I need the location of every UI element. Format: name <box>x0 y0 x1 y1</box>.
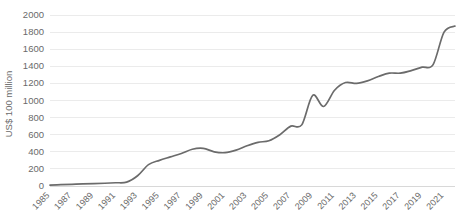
data-series <box>50 26 455 185</box>
chart-canvas: 0200400600800100012001400160018002000 19… <box>0 0 463 222</box>
line-chart: 0200400600800100012001400160018002000 19… <box>0 0 463 222</box>
y-axis-tick-label: 200 <box>28 163 44 174</box>
x-axis-tick-label: 2001 <box>205 190 226 211</box>
x-axis-tick-label: 1991 <box>96 190 117 211</box>
y-axis-tick-label: 400 <box>28 146 44 157</box>
series-line <box>50 26 455 185</box>
x-axis-tick-label: 2017 <box>380 190 401 211</box>
x-axis-tick-label: 2021 <box>424 190 445 211</box>
y-axis-tick-label: 800 <box>28 112 44 123</box>
y-axis-tick-labels: 0200400600800100012001400160018002000 <box>23 9 44 191</box>
x-axis-tick-labels: 1985198719891991199319951997199920012003… <box>30 190 445 211</box>
y-axis-tick-label: 1600 <box>23 43 44 54</box>
y-axis-tick-label: 2000 <box>23 9 44 20</box>
x-axis-tick-label: 1995 <box>140 190 161 211</box>
y-axis-title: US$ 100 million <box>3 71 14 138</box>
x-axis-tick-label: 2003 <box>227 190 248 211</box>
y-axis-tick-label: 1200 <box>23 77 44 88</box>
x-axis-tick-label: 1989 <box>74 190 95 211</box>
x-axis-tick-label: 1997 <box>162 190 183 211</box>
y-axis-tick-label: 600 <box>28 129 44 140</box>
y-axis-tick-label: 0 <box>39 180 44 191</box>
x-axis-tick-label: 2011 <box>315 190 336 211</box>
x-axis-tick-label: 2013 <box>337 190 358 211</box>
x-axis-tick-label: 2015 <box>359 190 380 211</box>
x-axis-tick-label: 2009 <box>293 190 314 211</box>
y-axis-tick-label: 1400 <box>23 60 44 71</box>
gridlines <box>50 15 455 186</box>
x-axis-tick-label: 1987 <box>52 190 73 211</box>
x-axis-tick-label: 2005 <box>249 190 270 211</box>
x-axis-tick-label: 1985 <box>30 190 51 211</box>
x-axis-tick-label: 1993 <box>118 190 139 211</box>
x-axis-tick-label: 2007 <box>271 190 292 211</box>
x-axis-tick-label: 1999 <box>183 190 204 211</box>
y-axis-tick-label: 1800 <box>23 26 44 37</box>
y-axis-tick-label: 1000 <box>23 95 44 106</box>
x-axis-tick-label: 2019 <box>402 190 423 211</box>
